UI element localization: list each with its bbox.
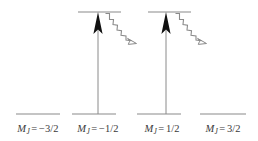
excitation-arrow-mj-minus-1-2: [93, 12, 102, 114]
emission-arrow-mj-plus-1-2: [176, 14, 207, 45]
emission-wavy-line: [106, 14, 132, 41]
emission-arrows: [106, 14, 207, 45]
label-equals: =: [157, 123, 166, 134]
label-value: 1/2: [166, 123, 180, 134]
emission-arrow-head: [128, 38, 137, 44]
label-m-symbol: M: [205, 123, 214, 134]
label-m-symbol: M: [17, 123, 26, 134]
sublevel-label-mj-minus-1-2: MJ=−1/2: [68, 124, 128, 135]
sublevel-label-mj-plus-1-2: MJ=1/2: [133, 124, 191, 135]
excitation-arrow-mj-plus-1-2: [161, 12, 170, 114]
energy-level-diagram: MJ=−3/2 MJ=−1/2 MJ=1/2 MJ=3/2: [0, 0, 258, 141]
label-equals: =: [90, 123, 99, 134]
emission-wavy-line: [176, 14, 202, 41]
label-m-symbol: M: [144, 123, 153, 134]
label-value: −3/2: [39, 123, 59, 134]
excitation-arrows: [93, 12, 170, 114]
label-m-symbol: M: [77, 123, 86, 134]
sublevel-label-mj-minus-3-2: MJ=−3/2: [8, 124, 68, 135]
diagram-canvas: [0, 0, 258, 141]
emission-arrow-mj-minus-1-2: [106, 14, 137, 45]
label-equals: =: [30, 123, 39, 134]
label-equals: =: [218, 123, 227, 134]
sublevel-label-mj-plus-3-2: MJ=3/2: [194, 124, 252, 135]
emission-arrow-head: [198, 38, 207, 44]
label-value: −1/2: [99, 123, 119, 134]
label-value: 3/2: [227, 123, 241, 134]
